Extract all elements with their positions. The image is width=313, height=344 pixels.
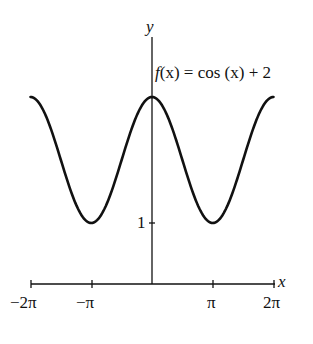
x-tick-label-pi: π [207, 294, 216, 311]
x-tick-label-neg2pi: −2π [10, 294, 37, 311]
function-label-rest: (x) = cos (x) + 2 [160, 63, 271, 82]
y-axis-label: y [146, 18, 154, 35]
function-label: f(x) = cos (x) + 2 [155, 64, 271, 81]
x-tick-label-2pi: 2π [263, 294, 280, 311]
x-tick-label-negpi: −π [76, 294, 94, 311]
x-axis-label: x [278, 273, 286, 290]
y-tick-label-1: 1 [137, 214, 146, 231]
